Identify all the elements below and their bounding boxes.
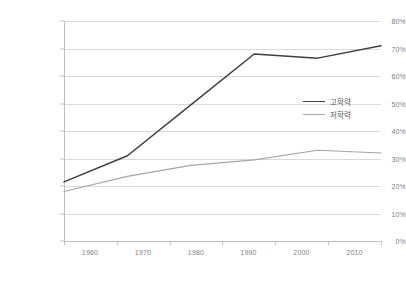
legend: 고학력 저학력 <box>303 96 352 120</box>
legend-item-high-education: 고학력 <box>303 96 352 107</box>
legend-label-low-education: 저학력 <box>330 109 352 120</box>
legend-item-low-education: 저학력 <box>303 109 352 120</box>
legend-swatch-high-education <box>303 101 325 102</box>
legend-swatch-low-education <box>303 114 325 115</box>
legend-label-high-education: 고학력 <box>330 96 352 107</box>
line-chart: .gridline{left:64px;width:317px;} 80% 70… <box>0 0 406 281</box>
series-lines <box>0 0 406 281</box>
series-line-low-education <box>64 150 381 191</box>
